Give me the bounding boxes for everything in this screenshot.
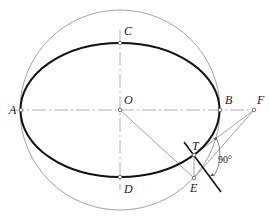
ellipse-diagram: A B C D O F T E 90° <box>0 0 269 216</box>
point-F <box>252 108 256 112</box>
point-C <box>118 41 122 45</box>
label-E: E <box>189 181 198 195</box>
label-D: D <box>123 182 133 196</box>
point-O <box>118 108 122 112</box>
point-E <box>192 176 196 180</box>
label-B: B <box>225 93 233 107</box>
arrow-head-bottom <box>210 173 214 176</box>
label-C: C <box>124 24 133 38</box>
point-B <box>218 108 222 112</box>
label-F: F <box>256 93 265 107</box>
label-O: O <box>124 93 133 107</box>
radius-OE <box>120 110 194 178</box>
label-A: A <box>8 103 17 117</box>
point-D <box>118 175 122 179</box>
angle-label: 90° <box>218 154 232 165</box>
point-T <box>192 153 196 157</box>
point-A <box>19 108 23 112</box>
